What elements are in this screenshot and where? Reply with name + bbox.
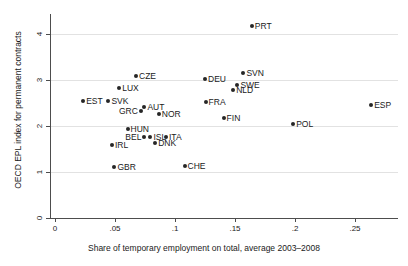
- data-point-label-irl: IRL: [115, 140, 128, 150]
- data-point-label-pol: POL: [296, 119, 313, 129]
- y-axis-line: [50, 14, 51, 218]
- data-point-gbr: [112, 165, 116, 169]
- y-axis-tick: [46, 34, 50, 35]
- y-axis-tick-label: 2: [34, 122, 44, 131]
- x-axis-tick: [235, 218, 236, 222]
- data-point-label-nld: NLD: [236, 85, 253, 95]
- x-axis-tick: [115, 218, 116, 222]
- x-axis-tick-label: .2: [292, 224, 299, 233]
- x-axis-tick-label: .05: [109, 224, 120, 233]
- data-point-label-est: EST: [86, 96, 103, 106]
- data-point-grc: [139, 109, 143, 113]
- y-axis-tick-label: 1: [34, 168, 44, 177]
- x-axis-tick-label: 0: [53, 224, 57, 233]
- x-axis-tick: [295, 218, 296, 222]
- data-point-svk: [106, 99, 110, 103]
- data-point-isl: [148, 135, 152, 139]
- data-point-nld: [231, 88, 235, 92]
- y-axis-tick-label: 3: [34, 76, 44, 85]
- x-axis-tick: [55, 218, 56, 222]
- x-axis-title: Share of temporary employment on total, …: [0, 243, 408, 253]
- data-point-label-cze: CZE: [139, 71, 156, 81]
- data-point-label-gbr: GBR: [117, 162, 135, 172]
- data-point-esp: [369, 103, 373, 107]
- gridline: [51, 126, 398, 127]
- data-point-est: [81, 99, 85, 103]
- data-point-label-fra: FRA: [209, 97, 226, 107]
- x-axis-tick-label: .15: [229, 224, 240, 233]
- data-point-nor: [157, 112, 161, 116]
- y-axis-tick: [46, 126, 50, 127]
- data-point-pol: [291, 122, 295, 126]
- data-point-label-svn: SVN: [246, 68, 263, 78]
- data-point-fra: [204, 100, 208, 104]
- data-point-label-esp: ESP: [374, 100, 391, 110]
- y-axis-tick: [46, 172, 50, 173]
- data-point-bel: [142, 135, 146, 139]
- data-point-label-svk: SVK: [111, 96, 128, 106]
- data-point-lux: [117, 86, 121, 90]
- data-point-label-nor: NOR: [162, 109, 181, 119]
- data-point-deu: [203, 77, 207, 81]
- x-axis-tick-label: .25: [349, 224, 360, 233]
- x-axis-tick: [175, 218, 176, 222]
- data-point-irl: [110, 143, 114, 147]
- scatter-plot-figure: 01234 0.05.1.15.2.25 PRTSVNCZEDEUSWELUXN…: [0, 0, 408, 266]
- data-point-cze: [134, 74, 138, 78]
- data-point-svn: [241, 71, 245, 75]
- x-axis-tick-label: .1: [172, 224, 179, 233]
- data-point-hun: [126, 127, 130, 131]
- x-axis-tick: [355, 218, 356, 222]
- y-axis-title: OECD EPL index for permanent contracts: [13, 15, 23, 205]
- data-point-aut: [142, 105, 146, 109]
- y-axis-tick-label: 0: [34, 214, 44, 223]
- x-axis-line: [50, 218, 398, 219]
- data-point-fin: [222, 116, 226, 120]
- data-point-che: [183, 164, 187, 168]
- data-point-dnk: [153, 141, 157, 145]
- data-point-label-fin: FIN: [227, 113, 241, 123]
- y-axis-tick: [46, 80, 50, 81]
- data-point-label-che: CHE: [188, 161, 206, 171]
- gridline: [51, 172, 398, 173]
- y-axis-tick: [46, 218, 50, 219]
- data-point-label-lux: LUX: [122, 83, 139, 93]
- gridline: [51, 34, 398, 35]
- data-point-prt: [250, 24, 254, 28]
- y-axis-tick-label: 4: [34, 30, 44, 39]
- data-point-label-grc: GRC: [119, 106, 138, 116]
- data-point-label-dnk: DNK: [158, 138, 176, 148]
- data-point-label-prt: PRT: [255, 21, 272, 31]
- data-point-label-deu: DEU: [208, 74, 226, 84]
